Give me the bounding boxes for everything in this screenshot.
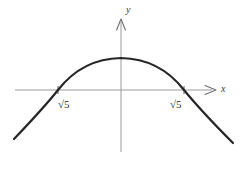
parabola-figure: y x √5 √5 [0, 0, 247, 172]
root-label-left: √5 [58, 99, 70, 110]
parabola-curve [14, 58, 233, 143]
y-axis-label: y [126, 5, 130, 15]
x-axis-label: x [221, 84, 225, 94]
parabola-plot [0, 0, 247, 172]
root-label-right: √5 [170, 99, 182, 110]
